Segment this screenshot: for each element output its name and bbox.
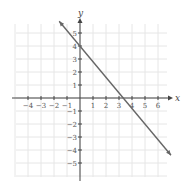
y-tick-label: 1 [73, 82, 77, 90]
y-tick-label: −4 [67, 147, 78, 155]
grid-lines [15, 24, 167, 177]
x-axis-arrow-icon [168, 96, 173, 101]
y-tick-label: 3 [73, 56, 77, 64]
x-tick-label: 1 [91, 102, 95, 110]
x-tick-label: 2 [104, 102, 108, 110]
y-tick-label: 4 [73, 43, 78, 51]
y-tick-label: 2 [73, 69, 77, 77]
y-axis-arrow-icon [78, 18, 83, 23]
y-tick-label: −1 [67, 108, 77, 116]
coordinate-plane: −4−3−2−1123456−5−4−3−2−112345 x y [0, 0, 192, 185]
y-axis-label: y [77, 8, 84, 18]
x-tick-label: 6 [156, 102, 161, 110]
y-tick-label: −3 [67, 134, 77, 142]
x-tick-label: 3 [117, 102, 121, 110]
x-tick-label: −4 [23, 102, 34, 110]
x-tick-label: −2 [49, 102, 59, 110]
y-tick-label: 5 [73, 30, 77, 38]
x-tick-label: 5 [143, 102, 147, 110]
y-tick-label: −2 [67, 121, 77, 129]
y-tick-label: −5 [67, 160, 77, 168]
x-axis-label: x [175, 93, 180, 103]
x-tick-label: −3 [36, 102, 46, 110]
